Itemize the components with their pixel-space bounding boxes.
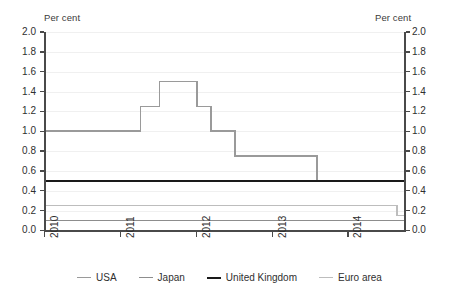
legend-label: Euro area [338,272,382,283]
data-series-layer [44,32,406,232]
y-axis-tick [406,91,410,92]
legend-swatch-icon [139,277,153,278]
series-line-euro-area [44,206,404,226]
y-axis-tick-label-left: 0.2 [10,205,36,216]
y-axis-tick-label-right: 0.8 [412,145,438,156]
y-axis-tick-label-left: 0.4 [10,185,36,196]
legend-swatch-icon [77,277,91,278]
x-axis-tick-label: 2013 [277,216,288,238]
y-axis-tick-label-right: 1.0 [412,125,438,136]
y-axis-tick-label-left: 1.0 [10,125,36,136]
y-axis-tick [406,230,410,231]
x-axis-tick-label: 2014 [352,216,363,238]
legend-item-japan[interactable]: Japan [139,272,185,283]
y-axis-right-line [404,32,406,232]
y-axis-tick [406,51,410,52]
y-axis-tick-label-left: 1.4 [10,86,36,97]
y-axis-tick-label-right: 1.8 [412,46,438,57]
y-axis-tick-label-right: 1.6 [412,66,438,77]
legend-swatch-icon [319,277,333,278]
y-axis-tick-label-right: 0.2 [412,205,438,216]
y-axis-tick-label-left: 1.8 [10,46,36,57]
y-axis-tick [406,131,410,132]
x-axis-tick [44,232,45,237]
x-axis-tick-label: 2011 [125,216,136,238]
legend-item-usa[interactable]: USA [77,272,117,283]
x-axis-tick [196,232,197,237]
legend-item-united-kingdom[interactable]: United Kingdom [207,272,297,283]
y-axis-tick [406,190,410,191]
legend-swatch-icon [207,277,221,279]
y-axis-tick-label-left: 1.6 [10,66,36,77]
plot-area [44,32,406,232]
y-axis-tick-label-left: 0.8 [10,145,36,156]
y-axis-tick-label-left: 2.0 [10,26,36,37]
x-axis-tick-label: 2010 [49,216,60,238]
y-axis-tick [406,111,410,112]
y-axis-tick [406,150,410,151]
x-axis-tick [347,232,348,237]
y-axis-left-line [44,32,46,232]
legend-label: United Kingdom [226,272,297,283]
legend-label: USA [96,272,117,283]
y-axis-tick [406,170,410,171]
y-axis-tick [406,71,410,72]
y-axis-unit-label-right: Per cent [375,12,411,23]
legend-item-euro-area[interactable]: Euro area [319,272,382,283]
y-axis-tick-label-right: 2.0 [412,26,438,37]
y-axis-tick [406,210,410,211]
x-axis-tick-label: 2012 [201,216,212,238]
x-axis-tick [272,232,273,237]
series-svg [44,32,406,232]
y-axis-tick [406,31,410,32]
y-axis-tick-label-left: 1.2 [10,105,36,116]
y-axis-tick-label-right: 0.4 [412,185,438,196]
y-axis-unit-label-left: Per cent [44,12,80,23]
y-axis-tick-label-left: 0.6 [10,165,36,176]
legend-label: Japan [158,272,185,283]
y-axis-tick-label-right: 0.6 [412,165,438,176]
series-line-usa [44,82,404,181]
chart-legend: USAJapanUnited KingdomEuro area [0,272,459,283]
y-axis-tick-label-right: 1.4 [412,86,438,97]
chart-figure: Per cent Per cent 0.00.00.20.20.40.40.60… [0,0,459,298]
y-axis-tick-label-left: 0.0 [10,224,36,235]
y-axis-tick-label-right: 1.2 [412,105,438,116]
x-axis-tick [120,232,121,237]
y-axis-tick-label-right: 0.0 [412,224,438,235]
